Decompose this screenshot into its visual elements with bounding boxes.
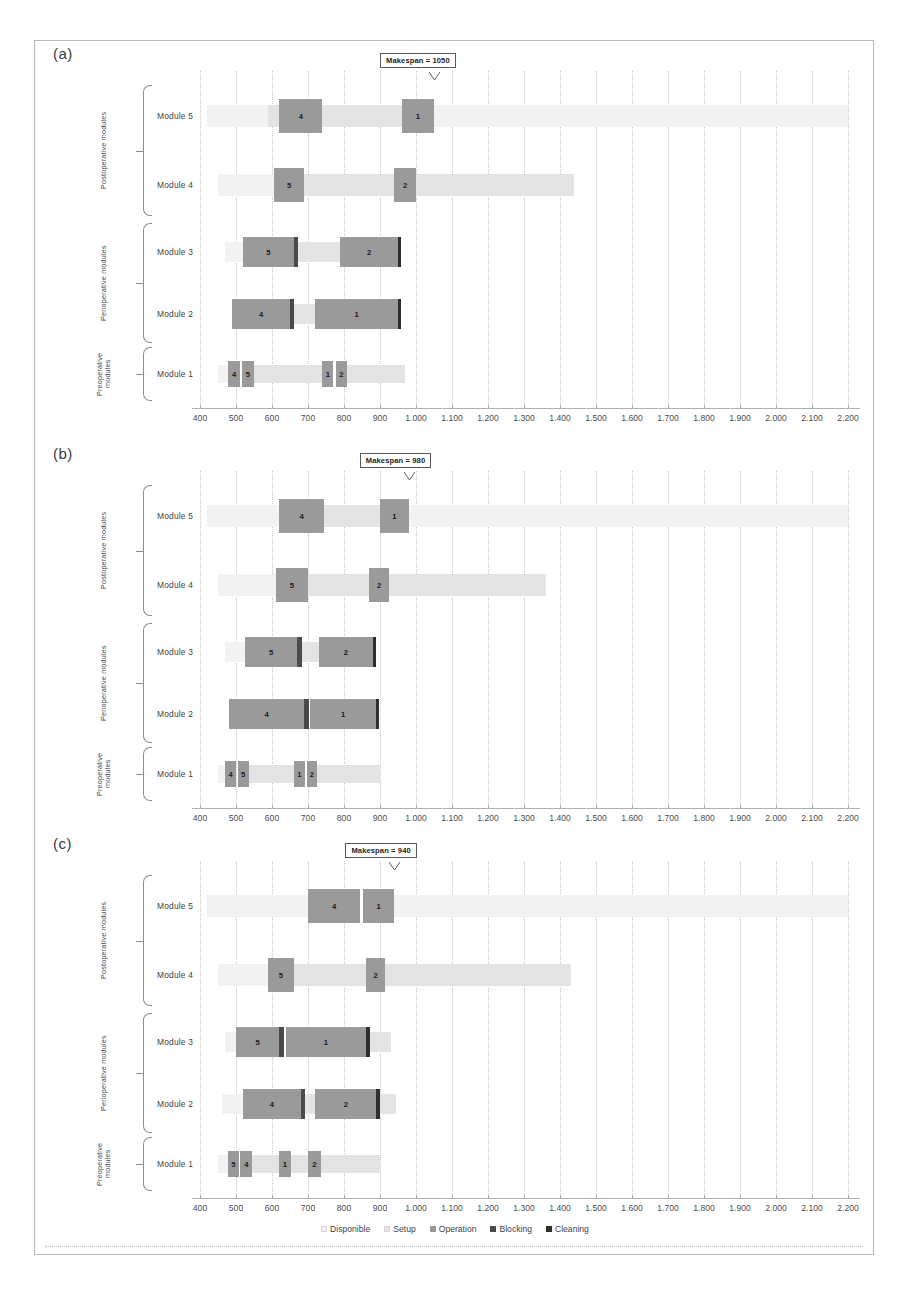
gantt-segment-operation: 1 xyxy=(363,889,395,923)
gantt-segment-operation: 4 xyxy=(240,1151,252,1177)
gantt-segment-setup xyxy=(324,505,380,527)
axis-tick-label: 500 xyxy=(229,413,243,423)
axis-tick-label: 1.800 xyxy=(693,813,715,823)
panel-b: (b)4005006007008009001.0001.1001.2001.30… xyxy=(35,441,875,836)
gantt-segment-operation: 4 xyxy=(243,1089,301,1119)
legend-separator xyxy=(45,1246,863,1247)
axis-tick-label: 1.200 xyxy=(477,813,499,823)
axis-tick-label: 1.100 xyxy=(441,1203,463,1213)
axis-tick-label: 1.500 xyxy=(585,813,607,823)
axis-tick-label: 800 xyxy=(337,1203,351,1213)
gantt-segment-setup xyxy=(298,242,340,262)
group-brace-nub xyxy=(136,283,143,284)
axis-tick-label: 2.100 xyxy=(801,813,823,823)
gantt-segment-operation: 1 xyxy=(322,361,333,387)
axis-tick-label: 400 xyxy=(193,413,207,423)
gantt-row: 52 xyxy=(35,237,875,267)
gantt-segment-disponible xyxy=(218,365,228,383)
axis-tick-label: 400 xyxy=(193,813,207,823)
gantt-segment-operation: 2 xyxy=(366,958,386,992)
axis-tick-label: 1.700 xyxy=(657,813,679,823)
figure-root: (a)4005006007008009001.0001.1001.2001.30… xyxy=(0,0,900,1293)
axis-tick-label: 500 xyxy=(229,813,243,823)
legend-item: Blocking xyxy=(490,1224,531,1234)
axis-tick-label: 1.500 xyxy=(585,1203,607,1213)
axis-tick-label: 1.000 xyxy=(405,413,427,423)
panel-c: (c)4005006007008009001.0001.1001.2001.30… xyxy=(35,831,875,1226)
gantt-segment-disponible xyxy=(207,505,279,527)
gantt-segment-operation: 4 xyxy=(279,99,322,133)
gantt-segment-setup xyxy=(294,964,366,986)
axis-tick-label: 1.900 xyxy=(729,1203,751,1213)
axis-tick-label: 900 xyxy=(373,813,387,823)
gantt-segment-setup xyxy=(304,174,394,196)
gantt-segment-operation: 2 xyxy=(336,361,347,387)
gantt-segment-setup xyxy=(254,365,322,383)
gantt-segment-operation: 4 xyxy=(225,761,236,787)
axis-tick-label: 1.400 xyxy=(549,813,571,823)
group-brace-nub xyxy=(136,941,143,942)
gantt-segment-operation: 5 xyxy=(238,761,249,787)
gantt-segment-blocking xyxy=(304,699,308,729)
gantt-segment-operation: 2 xyxy=(340,237,398,267)
gantt-row: 42 xyxy=(35,1089,875,1119)
gantt-segment-operation: 2 xyxy=(369,568,389,602)
gantt-segment-setup xyxy=(321,1155,380,1173)
legend-swatch-setup xyxy=(384,1226,390,1232)
gantt-segment-operation: 2 xyxy=(319,637,373,667)
gantt-segment-setup xyxy=(268,105,279,127)
gantt-segment-operation: 4 xyxy=(229,699,305,729)
gantt-segment-setup xyxy=(252,1155,279,1173)
gantt-segment-operation: 2 xyxy=(308,1151,321,1177)
gantt-segment-disponible xyxy=(394,895,848,917)
axis-tick-label: 1.700 xyxy=(657,413,679,423)
gantt-row: 52 xyxy=(35,958,875,992)
gantt-segment-setup xyxy=(385,964,570,986)
axis-tick-label: 500 xyxy=(229,1203,243,1213)
x-axis-line xyxy=(192,408,860,409)
gantt-segment-setup xyxy=(305,1094,315,1114)
axis-tick-label: 600 xyxy=(265,413,279,423)
axis-tick-label: 1.500 xyxy=(585,413,607,423)
gantt-row: 52 xyxy=(35,568,875,602)
gantt-segment-blocking xyxy=(279,1027,283,1057)
gantt-row: 5412 xyxy=(35,1151,875,1177)
legend-item: Cleaning xyxy=(546,1224,589,1234)
gantt-segment-operation: 1 xyxy=(315,299,398,329)
axis-tick-label: 2.200 xyxy=(837,813,859,823)
gantt-segment-setup xyxy=(294,304,315,324)
gantt-segment-setup xyxy=(322,105,401,127)
gantt-segment-operation: 4 xyxy=(308,889,360,923)
axis-tick-label: 2.200 xyxy=(837,413,859,423)
legend-label: Blocking xyxy=(499,1224,531,1234)
gantt-segment-disponible xyxy=(218,574,276,596)
axis-tick-label: 1.000 xyxy=(405,1203,427,1213)
panel-label-a: (a) xyxy=(53,45,73,62)
axis-tick-label: 1.400 xyxy=(549,413,571,423)
gantt-segment-operation: 1 xyxy=(294,761,306,787)
axis-tick-label: 700 xyxy=(301,1203,315,1213)
axis-tick-label: 1.200 xyxy=(477,413,499,423)
axis-tick-label: 700 xyxy=(301,413,315,423)
legend-label: Disponible xyxy=(330,1224,370,1234)
axis-tick-label: 2.000 xyxy=(765,1203,787,1213)
gantt-segment-disponible xyxy=(218,964,268,986)
figure-frame: (a)4005006007008009001.0001.1001.2001.30… xyxy=(34,40,874,1255)
gantt-segment-operation: 4 xyxy=(232,299,290,329)
gantt-segment-cleaning xyxy=(398,237,401,267)
gantt-row: 4512 xyxy=(35,361,875,387)
gantt-segment-setup xyxy=(291,1155,308,1173)
legend-item: Disponible xyxy=(321,1224,370,1234)
gantt-segment-disponible xyxy=(225,642,245,662)
x-axis-line xyxy=(192,808,860,809)
gantt-segment-setup xyxy=(380,1094,396,1114)
gantt-segment-operation: 5 xyxy=(274,168,305,202)
axis-tick-label: 2.000 xyxy=(765,813,787,823)
gantt-segment-cleaning xyxy=(373,637,376,667)
gantt-segment-disponible xyxy=(222,1094,244,1114)
gantt-row: 4512 xyxy=(35,761,875,787)
axis-tick-label: 1.200 xyxy=(477,1203,499,1213)
gantt-segment-disponible xyxy=(434,105,848,127)
axis-tick-label: 1.300 xyxy=(513,813,535,823)
group-brace-nub xyxy=(136,1073,143,1074)
